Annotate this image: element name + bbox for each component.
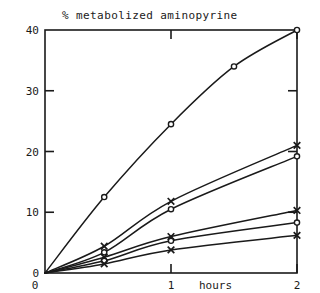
data-point-circle [102,250,107,255]
aminopyrine-metabolism-line-chart: % metabolized aminopyrine 010203040 012 … [0,0,320,293]
x-axis-label: hours [199,279,232,292]
data-point-circle [168,207,173,212]
y-tick-label: 20 [26,146,39,159]
chart-page: % metabolized aminopyrine 010203040 012 … [0,0,320,293]
data-point-circle [168,122,173,127]
x-tick-label: 1 [168,279,175,292]
y-tick-label: 10 [26,206,39,219]
data-point-circle [168,238,173,243]
data-point-circle [294,154,299,159]
x-tick-label: 2 [294,279,301,292]
data-point-circle [231,64,236,69]
y-tick-label: 40 [26,24,39,37]
x-tick-label: 0 [32,279,39,292]
data-point-circle [294,27,299,32]
data-point-circle [294,220,299,225]
chart-title: % metabolized aminopyrine [62,9,238,22]
data-point-circle [102,194,107,199]
y-tick-label: 30 [26,85,39,98]
